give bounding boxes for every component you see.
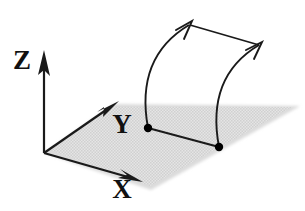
x-axis-label: X [112, 174, 132, 204]
y-axis-label: Y [112, 109, 132, 139]
right-curve-arrowhead-icon [246, 42, 262, 59]
diagram-canvas: Z Y X [0, 0, 305, 211]
figure-container: Z Y X [0, 0, 305, 211]
ground-plane-core [50, 106, 292, 186]
z-axis [38, 50, 50, 153]
surface-top-edge [190, 25, 259, 45]
left-curve-arrowhead-icon [176, 21, 192, 39]
z-axis-label: Z [13, 45, 31, 75]
ground-plane [44, 104, 300, 190]
base-point-left [144, 124, 152, 132]
base-point-right [215, 143, 223, 151]
